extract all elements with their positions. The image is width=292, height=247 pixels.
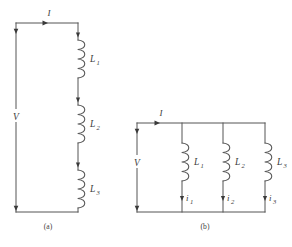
panel-b-L3-subscript: 3 <box>283 162 288 169</box>
panel-a-inductor-L1-coil <box>78 40 85 78</box>
panel-b-inductor-L1-label: L 1 <box>193 157 204 169</box>
panel-b-i1-subscript: 1 <box>190 198 193 205</box>
panel-b-current-label: I <box>159 108 164 118</box>
panel-b-L1-subscript: 1 <box>201 162 204 169</box>
panel-b-voltage-arrow-bottom <box>135 206 140 211</box>
circuit-diagram-svg: I V L 1 L 2 L 3 (a) <box>0 0 292 247</box>
panel-b-inductor-L3-label: L 3 <box>276 157 288 169</box>
panel-a-branch-arrow-1 <box>76 33 80 38</box>
panel-b-L2-letter: L <box>234 157 240 167</box>
panel-b-L2-subscript: 2 <box>242 162 246 169</box>
panel-b-current-arrow <box>155 121 161 126</box>
panel-a-series-circuit: I V L 1 L 2 L 3 (a) <box>11 8 101 231</box>
panel-b-inductor-L1-coil <box>182 143 189 181</box>
panel-b-branch1-current-label: i 1 <box>186 193 193 205</box>
panel-a-L3-subscript: 3 <box>96 189 101 196</box>
panel-b-inductor-L3-coil <box>265 143 272 181</box>
panel-b-branch3-current-label: i 3 <box>269 193 277 205</box>
panel-a-L1-subscript: 1 <box>97 59 100 66</box>
panel-b-branch2-current-label: i 2 <box>227 193 235 205</box>
figure-container: I V L 1 L 2 L 3 (a) <box>0 0 292 247</box>
panel-b-inductor-L2-coil <box>223 143 230 181</box>
panel-b-i3-subscript: 3 <box>272 198 277 205</box>
panel-b-i2-subscript: 2 <box>231 198 235 205</box>
panel-a-caption: (a) <box>44 222 53 231</box>
panel-b-L3-letter: L <box>276 157 282 167</box>
panel-a-L2-letter: L <box>89 119 95 129</box>
panel-a-current-arrow <box>43 21 49 26</box>
panel-a-inductor-L2-label: L 2 <box>89 119 101 131</box>
panel-a-L1-letter: L <box>89 54 95 64</box>
panel-a-branch-arrow-2 <box>76 98 80 103</box>
panel-a-L3-letter: L <box>89 184 95 194</box>
panel-b-L1-letter: L <box>193 157 199 167</box>
panel-a-current-label: I <box>47 8 52 18</box>
panel-b-branch1-current-arrow <box>180 196 184 201</box>
panel-b-i3-letter: i <box>269 193 272 203</box>
panel-a-L2-subscript: 2 <box>97 124 101 131</box>
panel-a-inductor-L3-label: L 3 <box>89 184 101 196</box>
panel-b-inductor-L2-label: L 2 <box>234 157 246 169</box>
panel-b-caption: (b) <box>201 222 210 231</box>
panel-a-inductor-L2-coil <box>78 105 85 143</box>
panel-b-i1-letter: i <box>186 193 189 203</box>
panel-b-branch2-current-arrow <box>221 196 225 201</box>
panel-a-inductor-L1-label: L 1 <box>89 54 100 66</box>
panel-a-voltage-arrow-bottom <box>14 206 19 211</box>
panel-a-voltage-arrow-top <box>14 29 19 34</box>
panel-a-inductor-L3-coil <box>78 170 85 208</box>
panel-b-parallel-circuit: I V L 1 L 2 L 3 i 1 i 2 i 3 (b) <box>132 108 288 231</box>
panel-b-i2-letter: i <box>227 193 230 203</box>
panel-b-voltage-arrow-top <box>135 129 140 134</box>
panel-a-branch-arrow-3 <box>76 163 80 168</box>
panel-b-branch3-current-arrow <box>263 196 267 201</box>
